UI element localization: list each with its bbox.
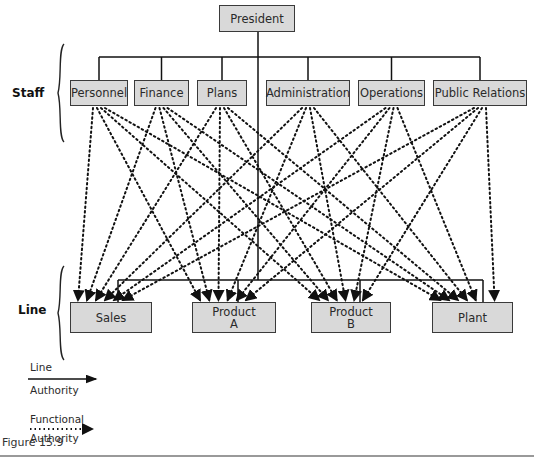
legend-line-authority-top: Line bbox=[30, 361, 52, 373]
node-sales[interactable]: Sales bbox=[70, 302, 152, 333]
node-finance[interactable]: Finance bbox=[134, 80, 189, 106]
node-operations[interactable]: Operations bbox=[358, 80, 425, 106]
node-plant[interactable]: Plant bbox=[432, 302, 513, 333]
staff-brace-icon bbox=[58, 44, 64, 142]
node-administration[interactable]: Administration bbox=[266, 80, 350, 106]
group-braces bbox=[58, 44, 64, 360]
line-authority-connectors bbox=[99, 32, 483, 302]
functional-authority-connectors bbox=[78, 108, 495, 300]
org-chart-diagram: President PersonnelFinancePlansAdministr… bbox=[0, 0, 534, 469]
node-personnel[interactable]: Personnel bbox=[70, 80, 128, 106]
node-product-b[interactable]: Product B bbox=[311, 302, 391, 333]
legend-line-authority-bottom: Authority bbox=[30, 384, 79, 396]
legend-functional-authority-top: Functional bbox=[30, 413, 84, 425]
line-group-label: Line bbox=[18, 303, 46, 317]
bottom-rule bbox=[0, 455, 534, 457]
node-public-relations[interactable]: Public Relations bbox=[433, 80, 527, 106]
connector-layer bbox=[0, 0, 534, 469]
line-brace-icon bbox=[58, 266, 64, 360]
node-product-a[interactable]: Product A bbox=[192, 302, 276, 333]
figure-caption: Figure 15.9 bbox=[2, 436, 64, 449]
node-president[interactable]: President bbox=[219, 5, 295, 32]
node-plans[interactable]: Plans bbox=[197, 80, 247, 106]
staff-group-label: Staff bbox=[12, 86, 44, 100]
